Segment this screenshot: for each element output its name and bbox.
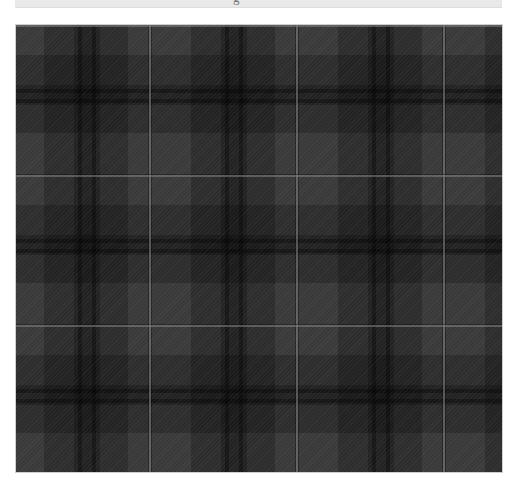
tartan-plaid-image — [15, 24, 503, 473]
caption-strip: g — [15, 0, 502, 8]
twill-texture — [16, 25, 502, 472]
caption-text-fragment: g — [233, 0, 240, 5]
